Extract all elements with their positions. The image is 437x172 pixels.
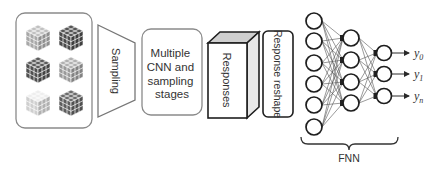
sampling-label: Sampling — [110, 48, 122, 94]
neuron-node — [306, 55, 322, 71]
rubiks-cube-icon — [26, 90, 50, 116]
neuron-node — [377, 46, 392, 61]
rubiks-cube-icon — [26, 57, 50, 83]
fnn-edge — [322, 38, 343, 105]
cnn-label-line-4: stages — [155, 88, 189, 100]
rubiks-cube-icon — [26, 25, 50, 51]
neuron-node — [306, 119, 322, 135]
neuron-node — [343, 30, 359, 46]
fnn-brace: FNN — [301, 137, 398, 164]
neuron-node — [306, 76, 322, 92]
fnn-edge — [322, 38, 343, 84]
cnn-label-line-2: CNN and — [147, 61, 194, 73]
svg-text:Multiple CNN and s: Multiple CNN and sampling stages — [147, 47, 198, 100]
neuron-node — [343, 74, 359, 90]
neuron-node — [306, 13, 322, 29]
neuron-node — [306, 97, 322, 113]
rubiks-cube-icon — [59, 57, 83, 83]
cnn-label-line-1: Multiple — [151, 47, 191, 59]
neuron-node — [377, 89, 392, 104]
responses-block: Responses — [208, 32, 259, 118]
pipeline-diagram: Sampling Multiple CNN and sampling stage… — [0, 0, 437, 172]
cube-grid — [26, 25, 83, 116]
fnn-edge — [322, 103, 343, 127]
fnn-label: FNN — [338, 152, 360, 164]
cnn-stages-box: Multiple CNN and sampling stages — [142, 29, 202, 115]
output-label: y1 — [413, 67, 423, 83]
neuron-node — [343, 95, 359, 111]
output-label: yn — [413, 89, 423, 105]
neuron-node — [377, 67, 392, 82]
cnn-label-line-3: sampling — [147, 75, 193, 87]
rubiks-cube-icon — [59, 90, 83, 116]
neuron-node — [343, 52, 359, 68]
rubiks-cube-icon — [59, 25, 83, 51]
fnn-nodes — [306, 13, 392, 135]
response-reshape-box: Response reshape — [263, 30, 293, 118]
neuron-node — [306, 33, 322, 49]
responses-label: Responses — [221, 52, 233, 108]
response-reshape-label: Response reshape — [272, 30, 284, 118]
sampling-stage: Sampling — [98, 25, 135, 117]
fnn-outputs: y0y1yn — [392, 46, 424, 105]
output-label: y0 — [413, 46, 423, 62]
